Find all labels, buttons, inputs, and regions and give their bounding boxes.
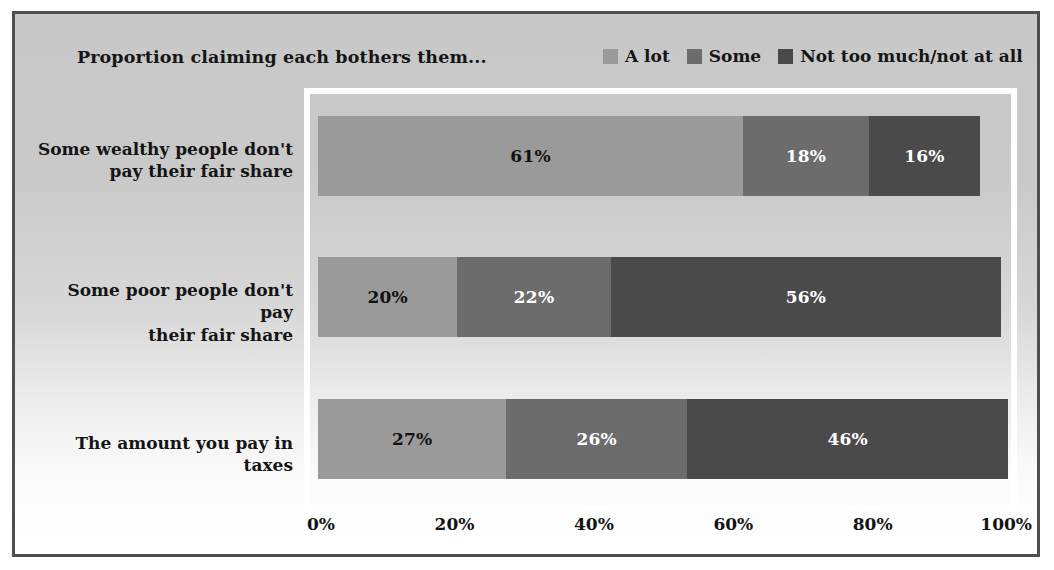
x-axis-tick-labels: 0%20%40%60%80%100% <box>318 514 1015 540</box>
legend-label-a-lot: A lot <box>625 48 670 65</box>
chart-title: Proportion claiming each bothers them... <box>77 47 487 67</box>
legend-item-a-lot[interactable]: A lot <box>603 48 670 65</box>
x-tick-label: 0% <box>307 514 335 534</box>
bar-segment: 27% <box>318 399 506 479</box>
chart-figure: Proportion claiming each bothers them...… <box>12 11 1040 557</box>
category-label-taxes: The amount you pay in taxes <box>37 432 293 477</box>
legend-item-some[interactable]: Some <box>687 48 761 65</box>
bar-segment: 22% <box>457 257 610 337</box>
category-label-line: Some poor people don't pay <box>67 280 293 322</box>
category-label-poor: Some poor people don't paytheir fair sha… <box>37 279 293 346</box>
x-tick-label: 60% <box>713 514 753 534</box>
legend-label-some: Some <box>709 48 761 65</box>
bar-row: 20%22%56% <box>318 257 1001 337</box>
bar-segment: 20% <box>318 257 457 337</box>
plot-area: 61%18%16% 20%22%56% 27%26%46% <box>318 94 1015 505</box>
chart-legend: A lot Some Not too much/not at all <box>603 48 1023 65</box>
legend-swatch-icon-a-lot <box>603 49 618 64</box>
legend-label-not-too-much: Not too much/not at all <box>800 48 1023 65</box>
category-axis-labels: Some wealthy people don'tpay their fair … <box>37 94 293 505</box>
bar-segment: 26% <box>506 399 687 479</box>
category-label-line: pay their fair share <box>110 161 293 181</box>
category-label-line: Some wealthy people don't <box>38 139 293 159</box>
bar-segment-value-label: 20% <box>367 289 407 306</box>
bar-segment-value-label: 18% <box>786 148 826 165</box>
category-label-line: The amount you pay in taxes <box>75 433 293 475</box>
category-label-wealthy: Some wealthy people don'tpay their fair … <box>37 138 293 183</box>
bar-segment-value-label: 61% <box>510 148 550 165</box>
bar-row: 27%26%46% <box>318 399 1008 479</box>
bar-segment-value-label: 46% <box>827 431 867 448</box>
legend-swatch-icon-not-too-much <box>778 49 793 64</box>
x-tick-label: 100% <box>980 514 1032 534</box>
bar-segment: 61% <box>318 116 743 196</box>
bar-segment: 56% <box>611 257 1001 337</box>
category-label-line: their fair share <box>148 325 293 345</box>
x-tick-label: 40% <box>574 514 614 534</box>
legend-item-not-too-much[interactable]: Not too much/not at all <box>778 48 1023 65</box>
bar-row: 61%18%16% <box>318 116 980 196</box>
bar-segment-value-label: 22% <box>514 289 554 306</box>
bar-segment: 18% <box>743 116 868 196</box>
legend-swatch-icon-some <box>687 49 702 64</box>
bar-segment-value-label: 27% <box>392 431 432 448</box>
bar-segment-value-label: 56% <box>786 289 826 306</box>
bar-segment: 16% <box>869 116 981 196</box>
bar-segment-value-label: 16% <box>904 148 944 165</box>
bar-segment-value-label: 26% <box>577 431 617 448</box>
x-tick-label: 20% <box>435 514 475 534</box>
x-tick-label: 80% <box>853 514 893 534</box>
bar-segment: 46% <box>687 399 1008 479</box>
